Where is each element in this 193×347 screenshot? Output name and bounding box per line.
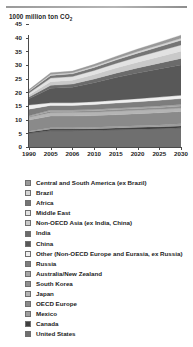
legend-swatch-icon [25, 291, 31, 297]
legend-item[interactable]: Australia/New Zealand [0, 269, 193, 279]
header-divider [6, 6, 187, 8]
legend-swatch-icon [25, 311, 31, 317]
legend-item[interactable]: Japan [0, 289, 193, 299]
stacked-area-chart: 1000 million ton CO2 051015202530354045 … [0, 13, 193, 175]
legend-swatch-icon [25, 220, 31, 226]
legend-item[interactable]: China [0, 239, 193, 249]
legend-swatch-icon [25, 200, 31, 206]
legend-swatch-icon [25, 321, 31, 327]
y-axis-title-text: 1000 million ton CO [9, 13, 70, 20]
legend-item[interactable]: Middle East [0, 208, 193, 218]
x-tick-mark [51, 147, 52, 150]
x-tick-mark [116, 147, 117, 150]
legend-swatch-icon [25, 301, 31, 307]
legend-item-label: Other (Non-OECD Europe and Eurasia, ex R… [36, 251, 182, 257]
legend-item[interactable]: India [0, 228, 193, 238]
legend-item-label: OECD Europe [36, 301, 77, 307]
y-tick-label: 40 [8, 34, 22, 41]
legend-swatch-icon [25, 271, 31, 277]
legend-item-label: Australia/New Zealand [36, 271, 102, 277]
legend-item-label: Middle East [36, 210, 70, 216]
x-tick-mark [181, 147, 182, 150]
legend-item-label: Central and South America (ex Brazil) [36, 180, 146, 186]
y-tick-label: 25 [8, 75, 22, 82]
legend-item-label: Non-OECD Asia (ex India, China) [36, 220, 132, 226]
x-tick-mark [72, 147, 73, 150]
x-tick-label: 2030 [170, 150, 192, 157]
x-tick-mark [29, 147, 30, 150]
x-tick-mark [138, 147, 139, 150]
x-tick-label: 2025 [148, 150, 170, 157]
x-tick-label: 2010 [83, 150, 105, 157]
legend-item-label: United States [36, 331, 76, 337]
legend-item[interactable]: United States [0, 329, 193, 339]
legend-swatch-icon [25, 281, 31, 287]
chart-legend: Central and South America (ex Brazil)Bra… [0, 178, 193, 340]
legend-item-label: Brazil [36, 190, 53, 196]
legend-swatch-icon [25, 231, 31, 237]
legend-swatch-icon [25, 241, 31, 247]
y-tick-label: 30 [8, 61, 22, 68]
x-tick-mark [159, 147, 160, 150]
legend-item-label: Russia [36, 261, 56, 267]
y-axis-title-subscript: 2 [70, 17, 73, 22]
legend-item-label: Canada [36, 321, 58, 327]
x-tick-label: 2015 [105, 150, 127, 157]
legend-item-label: Africa [36, 200, 54, 206]
legend-item[interactable]: OECD Europe [0, 299, 193, 309]
x-tick-label: 2006 [61, 150, 83, 157]
area-series-group [29, 24, 181, 147]
legend-item-label: Japan [36, 291, 54, 297]
legend-item[interactable]: Canada [0, 319, 193, 329]
legend-item-label: India [36, 230, 50, 236]
y-tick-label: 20 [8, 89, 22, 96]
legend-swatch-icon [25, 190, 31, 196]
legend-swatch-icon [25, 210, 31, 216]
x-tick-label: 1990 [18, 150, 40, 157]
legend-item-label: Mexico [36, 311, 57, 317]
legend-swatch-icon [25, 180, 31, 186]
legend-item[interactable]: Other (Non-OECD Europe and Eurasia, ex R… [0, 249, 193, 259]
y-tick-label: 35 [8, 48, 22, 55]
legend-item[interactable]: Central and South America (ex Brazil) [0, 178, 193, 188]
y-tick-label: 15 [8, 102, 22, 109]
legend-swatch-icon [25, 261, 31, 267]
y-tick-label: 5 [8, 130, 22, 137]
legend-item-label: South Korea [36, 281, 73, 287]
legend-item-label: China [36, 241, 53, 247]
legend-item[interactable]: Mexico [0, 309, 193, 319]
legend-item[interactable]: South Korea [0, 279, 193, 289]
y-tick-label: 10 [8, 116, 22, 123]
plot-area [29, 24, 181, 147]
x-tick-label: 2005 [40, 150, 62, 157]
legend-swatch-icon [25, 251, 31, 257]
legend-item[interactable]: Non-OECD Asia (ex India, China) [0, 218, 193, 228]
x-tick-label: 2020 [127, 150, 149, 157]
legend-item[interactable]: Russia [0, 259, 193, 269]
y-tick-label: 45 [8, 20, 22, 27]
legend-item[interactable]: Africa [0, 198, 193, 208]
legend-item[interactable]: Brazil [0, 188, 193, 198]
legend-swatch-icon [25, 331, 31, 337]
x-tick-mark [94, 147, 95, 150]
